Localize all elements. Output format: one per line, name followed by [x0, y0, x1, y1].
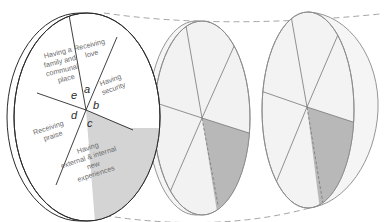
disc-2	[148, 20, 252, 218]
disc-3	[258, 10, 378, 210]
disc-1: Receiving love Having security Having a …	[7, 13, 162, 222]
segment-letter-b: b	[93, 99, 99, 111]
needs-disc-diagram: Receiving love Having security Having a …	[0, 0, 392, 222]
segment-letter-d: d	[71, 109, 78, 121]
segment-letter-e: e	[71, 89, 77, 101]
segment-letter-a: a	[84, 83, 90, 95]
segment-letter-c: c	[87, 117, 93, 129]
